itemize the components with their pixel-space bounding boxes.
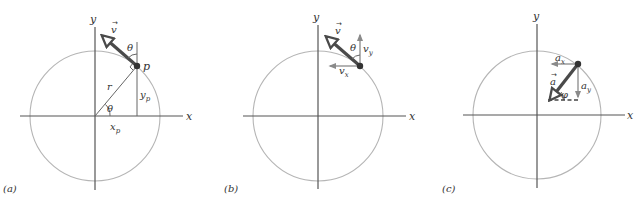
angle-origin-label: θ [107, 103, 113, 114]
angle-arc [352, 55, 360, 59]
radius-label: r [107, 81, 113, 92]
x-axis-label: x [409, 110, 416, 123]
panel-b: x y vy vx v → θ (b) [224, 11, 416, 194]
panel-caption-c: (c) [442, 183, 456, 194]
panel-c: x y ax ay a → φ (c) [442, 10, 634, 194]
vy-label: vy [363, 43, 374, 57]
y-axis-label: y [89, 13, 97, 26]
x-axis-label: x [627, 109, 634, 122]
radius-line [95, 66, 137, 116]
particle [575, 61, 581, 67]
vx-label: vx [339, 65, 349, 79]
vector-arrow-mark: → [336, 20, 342, 28]
uniform-circular-motion-figure: x y r θ yp xp v → θ p (a) x y vy vx [0, 0, 640, 205]
y-axis-label: y [532, 10, 540, 23]
xp-label: xp [110, 121, 121, 135]
x-axis-label: x [186, 110, 193, 123]
panel-caption-b: (b) [224, 183, 238, 194]
particle [134, 63, 140, 69]
ay-label: ay [581, 80, 592, 94]
point-p-label: p [143, 60, 150, 73]
panel-a: x y r θ yp xp v → θ p (a) [3, 13, 193, 194]
angle-phi-label: φ [561, 89, 568, 100]
vector-arrow-mark: → [112, 19, 118, 27]
angle-point-label: θ [127, 42, 133, 53]
panel-caption-a: (a) [3, 183, 17, 194]
yp-label: yp [139, 89, 151, 103]
vector-arrow-mark: → [551, 71, 557, 79]
y-axis-label: y [312, 11, 320, 24]
particle [357, 63, 363, 69]
angle-label: θ [350, 42, 356, 53]
